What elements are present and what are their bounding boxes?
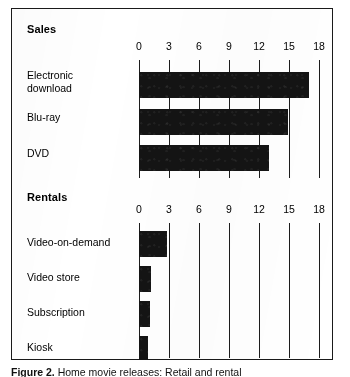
category-label-kiosk: Kiosk xyxy=(27,341,53,354)
x-axis-ticklabels-rentals: 0 3 6 9 12 15 18 xyxy=(139,203,319,219)
category-label-video-on-demand: Video-on-demand xyxy=(27,236,110,249)
x-tick-label-6: 6 xyxy=(196,40,202,52)
plot-area-sales: 0 3 6 9 12 15 18 xyxy=(139,60,319,178)
x-tick-label-0: 0 xyxy=(136,40,142,52)
bar-row-dvd xyxy=(139,145,319,171)
figure-caption-text: Home movie releases: Retail and rental xyxy=(58,366,242,377)
x-tick-label-15: 15 xyxy=(283,203,295,215)
bar-video-on-demand xyxy=(139,231,167,257)
gridline-18 xyxy=(319,223,320,358)
category-label-electronic-download: Electronic download xyxy=(27,69,73,94)
x-axis-ticklabels-sales: 0 3 6 9 12 15 18 xyxy=(139,40,319,56)
bar-row-electronic-download xyxy=(139,72,319,98)
panel-title-rentals: Rentals xyxy=(27,191,67,203)
figure-caption: Figure 2. Home movie releases: Retail an… xyxy=(11,366,341,377)
x-tick-label-9: 9 xyxy=(226,203,232,215)
x-tick-label-18: 18 xyxy=(313,40,325,52)
bar-kiosk xyxy=(139,336,148,360)
x-tick-label-15: 15 xyxy=(283,40,295,52)
gridline-18 xyxy=(319,60,320,178)
bar-blu-ray xyxy=(139,109,288,135)
x-tick-label-9: 9 xyxy=(226,40,232,52)
category-label-subscription: Subscription xyxy=(27,306,85,319)
category-label-blu-ray: Blu-ray xyxy=(27,111,60,124)
chart-panel-sales: Sales Electronic download Blu-ray DVD 0 … xyxy=(12,15,332,180)
x-tick-label-3: 3 xyxy=(166,40,172,52)
x-tick-label-18: 18 xyxy=(313,203,325,215)
bar-electronic-download xyxy=(139,72,309,98)
category-label-dvd: DVD xyxy=(27,147,49,160)
bar-dvd xyxy=(139,145,269,171)
bar-video-store xyxy=(139,266,151,292)
x-tick-label-12: 12 xyxy=(253,203,265,215)
bar-row-kiosk xyxy=(139,336,319,360)
figure-caption-label: Figure 2. xyxy=(11,366,55,377)
chart-panel-rentals: Rentals Video-on-demand Video store Subs… xyxy=(12,187,332,359)
plot-area-rentals: 0 3 6 9 12 15 18 xyxy=(139,223,319,358)
panel-title-sales: Sales xyxy=(27,23,56,35)
bar-row-blu-ray xyxy=(139,109,319,135)
category-label-video-store: Video store xyxy=(27,271,80,284)
x-tick-label-3: 3 xyxy=(166,203,172,215)
x-tick-label-0: 0 xyxy=(136,203,142,215)
bar-row-video-store xyxy=(139,266,319,292)
bar-row-video-on-demand xyxy=(139,231,319,257)
bar-row-subscription xyxy=(139,301,319,327)
x-tick-label-12: 12 xyxy=(253,40,265,52)
x-tick-label-6: 6 xyxy=(196,203,202,215)
bar-subscription xyxy=(139,301,150,327)
figure-frame: Sales Electronic download Blu-ray DVD 0 … xyxy=(11,8,333,360)
